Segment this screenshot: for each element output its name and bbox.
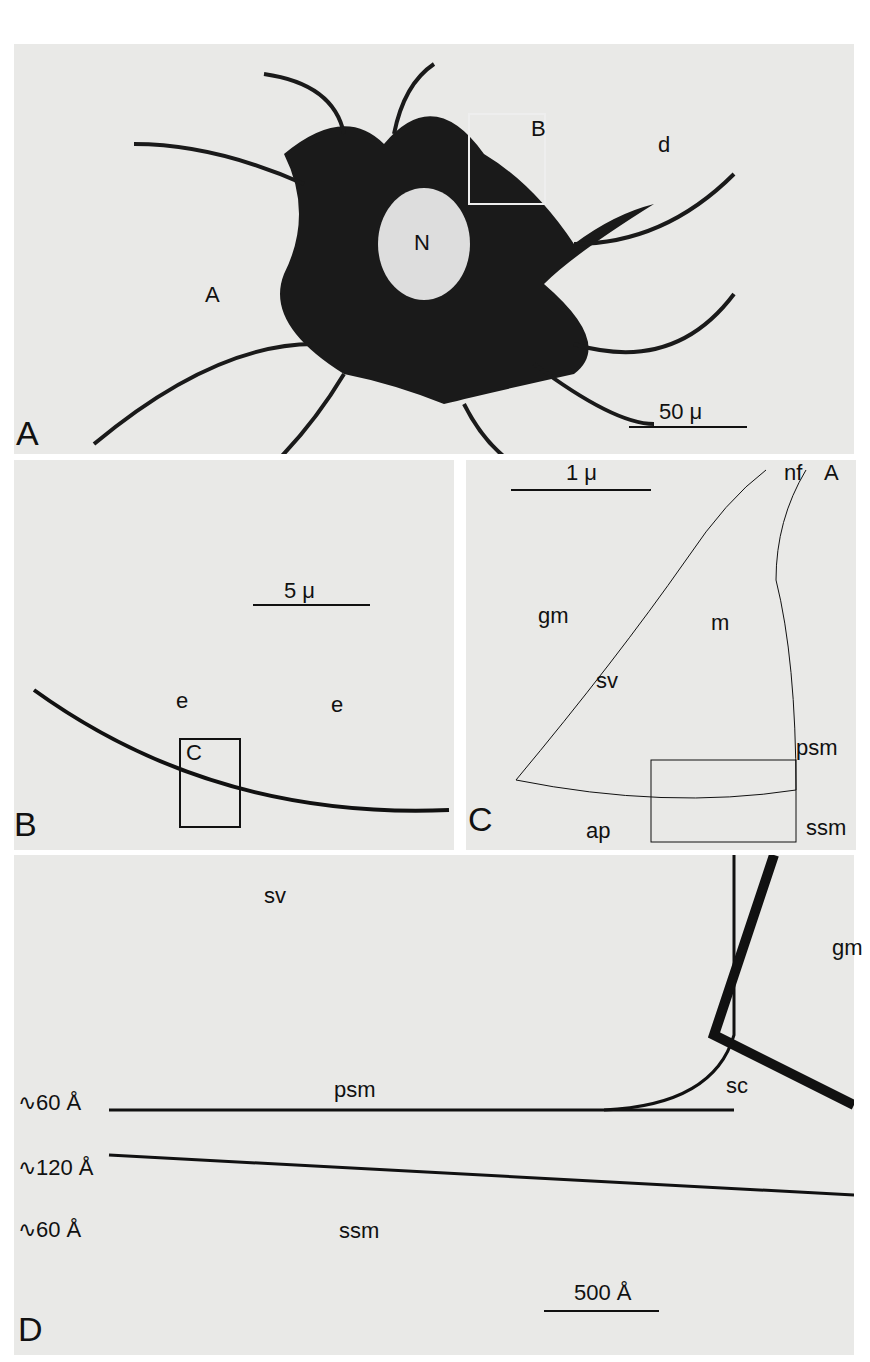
label-e: e bbox=[176, 688, 188, 714]
label-gm: gm bbox=[538, 603, 569, 629]
label-e: e bbox=[331, 692, 343, 718]
label-b: B bbox=[531, 116, 546, 142]
label-d: d bbox=[658, 132, 670, 158]
label-sc: sc bbox=[726, 1073, 748, 1099]
panel-letter: B bbox=[14, 805, 37, 844]
label-nf: nf bbox=[784, 460, 802, 486]
dim-120a: ∿120 Å bbox=[18, 1155, 94, 1181]
panel-a: B d N A 50 μ A bbox=[14, 44, 854, 454]
label-psm: psm bbox=[796, 735, 838, 761]
label-m: m bbox=[711, 610, 729, 636]
scale-bar: 50 μ bbox=[659, 399, 702, 425]
panel-c: A nf gm m sv psm ap ssm 1 μ C bbox=[466, 460, 856, 850]
scale-bar: 1 μ bbox=[566, 460, 597, 486]
label-gm: gm bbox=[832, 935, 863, 961]
dim-60a: ∿60 Å bbox=[18, 1217, 81, 1243]
label-ap: ap bbox=[586, 818, 610, 844]
label-c: C bbox=[186, 740, 202, 766]
label-axon: A bbox=[205, 282, 220, 308]
scale-bar: 500 Å bbox=[574, 1280, 632, 1306]
dim-60a: ∿60 Å bbox=[18, 1090, 81, 1116]
panel-letter: C bbox=[468, 800, 493, 839]
panel-d: sv gm psm sc ssm ∿60 Å ∿120 Å ∿60 Å 500 … bbox=[14, 855, 854, 1355]
scale-bar: 5 μ bbox=[284, 578, 315, 604]
neuron-drawing bbox=[14, 44, 854, 454]
panel-b: e e C 5 μ B bbox=[14, 460, 454, 850]
label-ssm: ssm bbox=[806, 815, 846, 841]
panel-letter: D bbox=[18, 1310, 43, 1349]
label-sv: sv bbox=[264, 883, 286, 909]
label-psm: psm bbox=[334, 1077, 376, 1103]
label-ssm: ssm bbox=[339, 1218, 379, 1244]
label-n: N bbox=[414, 230, 430, 256]
panel-letter: A bbox=[16, 414, 39, 453]
label-a: A bbox=[824, 460, 839, 486]
label-sv: sv bbox=[596, 668, 618, 694]
